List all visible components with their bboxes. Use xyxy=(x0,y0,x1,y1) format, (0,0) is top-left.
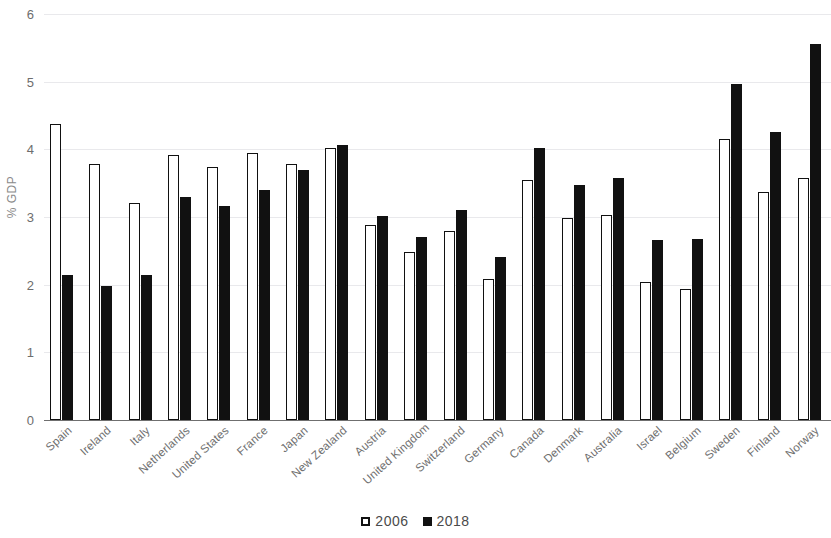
bar-2018 xyxy=(534,148,545,420)
bar-2006 xyxy=(444,231,455,420)
y-axis-tick-label: 1 xyxy=(4,345,34,360)
bar-group xyxy=(325,14,348,420)
bar-2006 xyxy=(719,139,730,420)
bar-2006 xyxy=(168,155,179,420)
bar-group xyxy=(247,14,270,420)
legend-label: 2006 xyxy=(375,513,408,529)
y-axis-tick-label: 4 xyxy=(4,142,34,157)
bar-2006 xyxy=(207,167,218,420)
bar-2006 xyxy=(50,124,61,420)
bar-group xyxy=(522,14,545,420)
bar-2006 xyxy=(129,203,140,420)
bar-2018 xyxy=(770,132,781,420)
bar-group xyxy=(286,14,309,420)
bar-chart: % GDP 0123456 SpainIrelandItalyNetherlan… xyxy=(0,0,831,538)
bar-2006 xyxy=(247,153,258,420)
bar-2018 xyxy=(180,197,191,420)
bar-group xyxy=(798,14,821,420)
legend-item: 2018 xyxy=(423,513,470,529)
bar-2006 xyxy=(522,180,533,420)
y-axis-tick-label: 0 xyxy=(4,413,34,428)
bar-2018 xyxy=(62,275,73,420)
bar-2006 xyxy=(286,164,297,420)
legend-swatch-icon xyxy=(423,517,432,526)
y-axis-tick-label: 5 xyxy=(4,74,34,89)
bar-2006 xyxy=(798,178,809,420)
bar-2018 xyxy=(456,210,467,420)
bar-group xyxy=(483,14,506,420)
bar-2018 xyxy=(298,170,309,420)
bar-2006 xyxy=(404,252,415,420)
bar-2018 xyxy=(219,206,230,421)
chart-legend: 20062018 xyxy=(0,513,831,529)
bar-2006 xyxy=(562,218,573,420)
bar-2018 xyxy=(259,190,270,420)
bar-group xyxy=(719,14,742,420)
bar-2018 xyxy=(613,178,624,420)
bar-2018 xyxy=(652,240,663,420)
bar-group xyxy=(50,14,73,420)
bar-2018 xyxy=(495,257,506,420)
plot-area: 0123456 xyxy=(44,14,831,420)
bar-2006 xyxy=(89,164,100,420)
bar-group xyxy=(129,14,152,420)
bar-2006 xyxy=(680,289,691,420)
bar-group xyxy=(758,14,781,420)
bar-group xyxy=(601,14,624,420)
bar-2006 xyxy=(365,225,376,420)
y-axis-tick-label: 3 xyxy=(4,210,34,225)
x-axis-labels: SpainIrelandItalyNetherlandsUnited State… xyxy=(44,424,831,508)
bar-group xyxy=(365,14,388,420)
legend-item: 2006 xyxy=(361,513,408,529)
bar-group xyxy=(562,14,585,420)
bar-group xyxy=(680,14,703,420)
bar-2018 xyxy=(416,237,427,420)
bar-group xyxy=(207,14,230,420)
bar-2018 xyxy=(377,216,388,420)
y-axis-tick-label: 6 xyxy=(4,7,34,22)
bar-2006 xyxy=(325,148,336,420)
bar-group xyxy=(444,14,467,420)
gridline xyxy=(44,420,831,421)
bar-2006 xyxy=(483,279,494,420)
y-axis-tick-label: 2 xyxy=(4,277,34,292)
bar-2018 xyxy=(810,44,821,420)
bar-group xyxy=(640,14,663,420)
bar-2018 xyxy=(141,275,152,420)
bar-2006 xyxy=(758,192,769,420)
bar-group xyxy=(168,14,191,420)
bar-2018 xyxy=(731,84,742,420)
bar-series-container xyxy=(44,14,831,420)
bar-2018 xyxy=(692,239,703,420)
bar-2018 xyxy=(337,145,348,420)
bar-2018 xyxy=(101,286,112,420)
bar-group xyxy=(404,14,427,420)
bar-group xyxy=(89,14,112,420)
legend-swatch-icon xyxy=(361,517,370,526)
bar-2006 xyxy=(640,282,651,420)
legend-label: 2018 xyxy=(437,513,470,529)
bar-2018 xyxy=(574,185,585,420)
bar-2006 xyxy=(601,215,612,420)
